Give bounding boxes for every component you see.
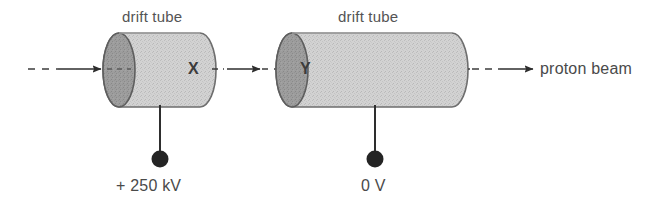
node-label-x: X	[188, 60, 199, 78]
node-label-y: Y	[300, 60, 311, 78]
drift-tube-x	[103, 33, 216, 107]
drift-tube-diagram	[0, 0, 668, 212]
terminal-lead-y	[367, 105, 384, 168]
terminal-lead-x	[152, 105, 169, 168]
drift-tube-y-label: drift tube	[338, 8, 398, 25]
terminal-dot-icon-x	[152, 151, 169, 168]
proton-beam-label: proton beam	[540, 60, 632, 78]
voltage-label-x: + 250 kV	[116, 177, 181, 195]
drift-tube-x-label: drift tube	[122, 8, 182, 25]
tube-x-left-face	[103, 33, 135, 107]
diagram-canvas: drift tube drift tube X Y + 250 kV 0 V p…	[0, 0, 668, 212]
terminal-dot-icon-y	[367, 151, 384, 168]
voltage-label-y: 0 V	[361, 177, 386, 195]
